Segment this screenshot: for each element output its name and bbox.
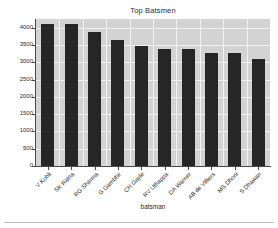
y-axis-tick-label: 1500 xyxy=(3,110,33,116)
x-axis-tick-mark xyxy=(165,167,166,170)
y-axis-tick-label: 4000 xyxy=(3,24,33,30)
y-axis-tick-mark xyxy=(32,28,35,29)
y-axis-tick-mark xyxy=(32,149,35,150)
x-axis-tick-mark xyxy=(71,167,72,170)
x-axis-tick-mark xyxy=(141,167,142,170)
x-axis-tick-mark xyxy=(258,167,259,170)
bar xyxy=(111,40,124,166)
y-axis-tick-label: 2000 xyxy=(3,93,33,99)
bar xyxy=(228,53,241,166)
chart-title: Top Batsmen xyxy=(36,6,270,15)
x-axis-tick-mark xyxy=(95,167,96,170)
y-axis-line xyxy=(35,19,36,167)
y-axis-tick-label: 500 xyxy=(3,145,33,151)
bar xyxy=(65,24,78,166)
bar xyxy=(205,53,218,166)
bar xyxy=(158,49,171,166)
y-axis-tick-label: 3000 xyxy=(3,58,33,64)
y-axis-tick-label: 3500 xyxy=(3,41,33,47)
y-axis-tick-mark xyxy=(32,80,35,81)
bar xyxy=(182,49,195,166)
y-axis-tick-mark xyxy=(32,62,35,63)
y-axis-tick-label: 2500 xyxy=(3,76,33,82)
y-axis-tick-mark xyxy=(32,114,35,115)
y-axis-tick-label: 0 xyxy=(3,162,33,168)
y-axis-tick-mark xyxy=(32,97,35,98)
x-axis-tick-mark xyxy=(235,167,236,170)
x-axis-tick-mark xyxy=(118,167,119,170)
y-axis-tick-mark xyxy=(32,45,35,46)
bar xyxy=(88,32,101,166)
chart-figure: Top Batsmen 0500100015002000250030003500… xyxy=(0,0,278,228)
x-axis-tick-mark xyxy=(48,167,49,170)
y-axis-tick-label: 1000 xyxy=(3,127,33,133)
x-axis-title: batsman xyxy=(36,203,270,210)
y-axis-tick-mark xyxy=(32,166,35,167)
y-axis-tick-mark xyxy=(32,131,35,132)
bar xyxy=(41,24,54,166)
bar xyxy=(252,59,265,166)
x-axis-tick-mark xyxy=(188,167,189,170)
bar-series xyxy=(36,19,270,166)
footer-divider xyxy=(4,222,274,223)
bar xyxy=(135,46,148,166)
plot-area xyxy=(36,19,270,166)
